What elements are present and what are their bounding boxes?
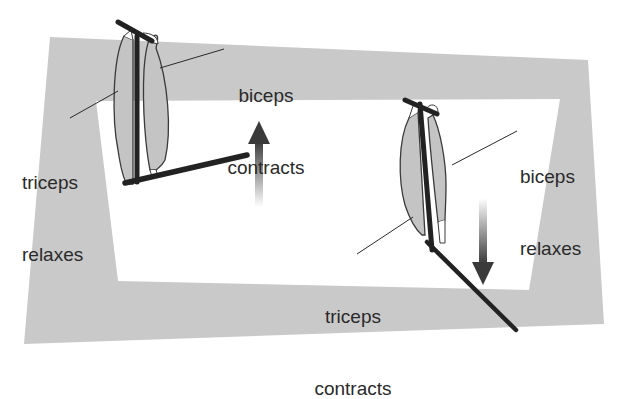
right-triceps-leader-line bbox=[357, 217, 413, 254]
left-biceps-label-line1: biceps bbox=[220, 84, 312, 108]
arrow-down-icon bbox=[472, 198, 494, 285]
left-triceps-muscle bbox=[114, 36, 133, 184]
right-biceps-leader-line bbox=[452, 131, 517, 165]
right-triceps-label-line1: triceps bbox=[306, 305, 400, 329]
right-triceps-label: triceps contracts bbox=[306, 257, 400, 399]
left-triceps-label-line2: relaxes bbox=[22, 243, 102, 267]
left-biceps-label-line2: contracts bbox=[220, 156, 312, 180]
right-biceps-label-line2: relaxes bbox=[520, 237, 600, 261]
right-triceps-label-line2: contracts bbox=[306, 377, 400, 399]
left-triceps-label: triceps relaxes bbox=[22, 123, 102, 291]
right-biceps-label: biceps relaxes bbox=[520, 117, 600, 285]
left-triceps-label-line1: triceps bbox=[22, 171, 102, 195]
right-biceps-label-line1: biceps bbox=[520, 165, 600, 189]
left-biceps-label: biceps contracts bbox=[220, 36, 312, 204]
